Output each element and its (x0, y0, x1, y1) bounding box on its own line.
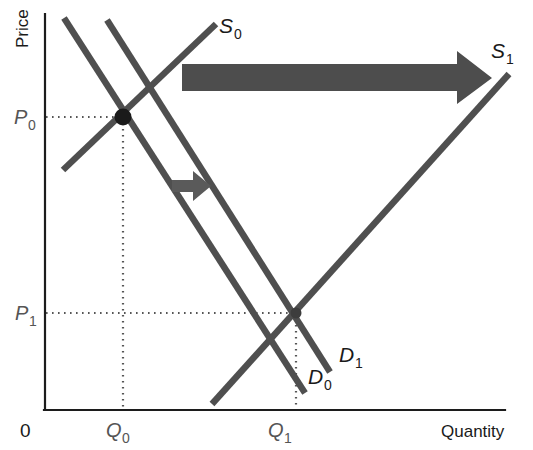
quantity-tick-q1: Q 1 (268, 419, 292, 446)
supply-curve-s0 (63, 24, 216, 170)
supply-shift-arrow (182, 51, 492, 104)
x-axis-title: Quantity (441, 422, 505, 441)
curve-label-d1-text: D (339, 343, 354, 366)
curve-label-s0-text: S (219, 14, 233, 37)
price-tick-p1-subscript: 1 (29, 313, 37, 329)
curve-label-d0-subscript: 0 (324, 377, 332, 393)
quantity-tick-q0-label: Q (106, 419, 122, 441)
curve-label-s0: S 0 (219, 14, 242, 42)
equilibrium-point-e0 (115, 109, 132, 126)
curve-label-s0-subscript: 0 (234, 26, 242, 42)
curve-label-s1: S 1 (491, 39, 514, 67)
y-axis-title: Price (13, 9, 32, 48)
quantity-tick-q0: Q 0 (106, 419, 130, 446)
quantity-tick-q1-subscript: 1 (284, 430, 292, 446)
price-tick-p1-label: P (15, 302, 29, 324)
quantity-tick-q1-label: Q (268, 419, 284, 441)
supply-demand-figure: Price Quantity 0 P 0 P 1 Q 0 Q 1 S 0 S 1 (0, 0, 533, 450)
quantity-tick-q0-subscript: 0 (122, 430, 130, 446)
origin-label: 0 (20, 420, 31, 441)
curve-label-d1-subscript: 1 (355, 355, 363, 371)
curve-label-s1-subscript: 1 (506, 51, 514, 67)
price-tick-p0: P 0 (14, 106, 36, 133)
price-tick-p0-subscript: 0 (28, 117, 36, 133)
price-tick-p1: P 1 (15, 302, 37, 329)
equilibrium-point-e1 (291, 308, 302, 319)
price-tick-p0-label: P (14, 106, 28, 128)
diagram-canvas: Price Quantity 0 P 0 P 1 Q 0 Q 1 S 0 S 1 (0, 0, 533, 450)
curve-label-s1-text: S (491, 39, 505, 62)
curve-label-d0-text: D (308, 365, 323, 388)
curve-label-d1: D 1 (339, 343, 363, 371)
